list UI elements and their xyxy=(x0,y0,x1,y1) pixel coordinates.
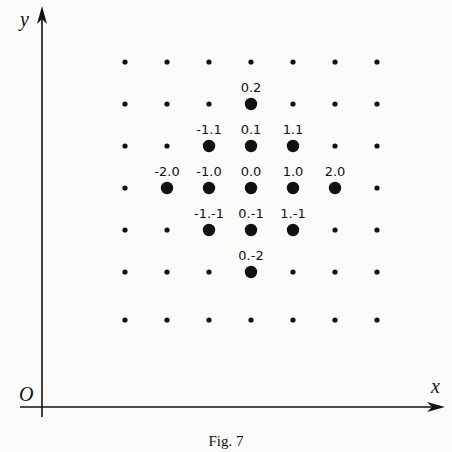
lattice-dot xyxy=(374,59,379,64)
lattice-dot xyxy=(122,317,127,322)
lattice-dot xyxy=(206,59,211,64)
lattice-dot xyxy=(374,227,379,232)
highlighted-dot xyxy=(287,182,299,194)
origin-label: O xyxy=(19,383,33,405)
lattice-dot xyxy=(164,227,169,232)
lattice-dot xyxy=(122,269,127,274)
lattice-dot xyxy=(206,317,211,322)
highlighted-dot xyxy=(329,182,341,194)
lattice-dot xyxy=(164,101,169,106)
highlighted-dot xyxy=(245,266,257,278)
lattice-dot xyxy=(248,317,253,322)
lattice-dot xyxy=(248,59,253,64)
lattice-dot xyxy=(164,59,169,64)
y-axis-label: y xyxy=(18,8,29,31)
lattice-dot xyxy=(332,269,337,274)
lattice-dot xyxy=(374,101,379,106)
lattice-dot xyxy=(122,185,127,190)
x-axis-label: x xyxy=(430,375,440,397)
point-label: 0.-1 xyxy=(238,206,263,221)
point-label: 2.0 xyxy=(325,164,346,179)
lattice-dot xyxy=(332,101,337,106)
lattice-dot xyxy=(206,101,211,106)
lattice-dot xyxy=(290,101,295,106)
highlighted-dot xyxy=(203,140,215,152)
highlighted-dot xyxy=(245,140,257,152)
lattice-figure: y x O 0.2-1.10.11.1-2.0-1.00.01.02.0-1.-… xyxy=(0,0,452,452)
lattice-dot xyxy=(374,317,379,322)
point-label: 1.0 xyxy=(283,164,304,179)
highlighted-dot xyxy=(287,224,299,236)
lattice-dot xyxy=(122,143,127,148)
lattice-dot xyxy=(164,317,169,322)
point-label: 1.-1 xyxy=(280,206,305,221)
highlighted-dot xyxy=(245,224,257,236)
lattice-dot xyxy=(332,227,337,232)
lattice-dot xyxy=(164,269,169,274)
point-label: -1.0 xyxy=(196,164,221,179)
point-label: -1.1 xyxy=(196,122,221,137)
lattice-dot xyxy=(332,143,337,148)
point-label: 0.0 xyxy=(241,164,262,179)
lattice-dot xyxy=(206,269,211,274)
lattice-dot xyxy=(374,269,379,274)
lattice-dot xyxy=(290,269,295,274)
point-label: 1.1 xyxy=(283,122,304,137)
highlighted-dot xyxy=(245,98,257,110)
axes: y x O xyxy=(18,6,445,417)
figure-caption: Fig. 7 xyxy=(208,433,244,449)
lattice-dot xyxy=(290,317,295,322)
point-label: -1.-1 xyxy=(194,206,224,221)
highlighted-points: 0.2-1.10.11.1-2.0-1.00.01.02.0-1.-10.-11… xyxy=(154,80,345,278)
lattice-dot xyxy=(332,59,337,64)
lattice-dot xyxy=(374,185,379,190)
point-label: 0.1 xyxy=(241,122,262,137)
highlighted-dot xyxy=(245,182,257,194)
highlighted-dot xyxy=(287,140,299,152)
point-label: 0.2 xyxy=(241,80,262,95)
lattice-dot xyxy=(122,101,127,106)
lattice-dot xyxy=(374,143,379,148)
highlighted-dot xyxy=(203,182,215,194)
lattice-dot xyxy=(164,143,169,148)
lattice-dot xyxy=(332,317,337,322)
lattice-dot xyxy=(290,59,295,64)
highlighted-dot xyxy=(203,224,215,236)
lattice-dot xyxy=(122,227,127,232)
highlighted-dot xyxy=(161,182,173,194)
lattice-dot xyxy=(122,59,127,64)
point-label: -2.0 xyxy=(154,164,179,179)
point-label: 0.-2 xyxy=(238,248,263,263)
